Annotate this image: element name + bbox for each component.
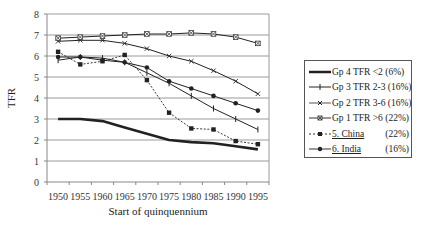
- x-tick-label: 1950: [48, 191, 68, 202]
- circle-marker-swatch-icon: [309, 144, 331, 154]
- series-gp-1-tfr-6: [56, 31, 260, 46]
- thick-line-swatch-icon: [309, 67, 331, 77]
- x-tick-label: 1965: [115, 191, 135, 202]
- legend-label: Gp 2 TFR 3-6 (16%): [332, 98, 412, 108]
- legend-share: (16%): [385, 144, 409, 154]
- boxed-x-marker-swatch-icon: [309, 113, 331, 123]
- x-tick-label: 1960: [93, 191, 113, 202]
- y-tick-label: 7: [34, 30, 39, 41]
- series-gp-2-tfr-3-6: [56, 38, 260, 96]
- legend-label: 5. China: [332, 129, 385, 139]
- legend-label: 6. India: [332, 144, 385, 154]
- x-axis-title: Start of quinquennium: [109, 205, 208, 217]
- legend-item-gp2: Gp 2 TFR 3-6 (16%): [309, 95, 409, 111]
- y-tick-label: 5: [34, 72, 39, 83]
- y-axis-ticks: 012345678: [34, 9, 47, 188]
- legend-item-china: 5. China (22%): [309, 126, 409, 142]
- x-tick-label: 1990: [226, 191, 246, 202]
- series-gp-4-tfr-2: [58, 119, 258, 149]
- legend-item-gp3: Gp 3 TFR 2-3 (16%): [309, 80, 409, 96]
- x-marker-swatch-icon: [309, 98, 331, 108]
- chart-legend: Gp 4 TFR <2 (6%) Gp 3 TFR 2-3 (16%) Gp 2…: [304, 60, 412, 158]
- legend-label: Gp 1 TFR >6 (22%): [332, 113, 409, 123]
- y-tick-label: 6: [34, 51, 39, 62]
- legend-item-gp4: Gp 4 TFR <2 (6%): [309, 64, 409, 80]
- y-axis-title: TFR: [5, 87, 17, 108]
- legend-label: Gp 4 TFR <2 (6%): [332, 67, 409, 77]
- legend-share: (22%): [385, 129, 409, 139]
- legend-item-india: 6. India (16%): [309, 142, 409, 158]
- y-tick-label: 3: [34, 114, 39, 125]
- x-tick-label: 1980: [181, 191, 201, 202]
- plus-marker-swatch-icon: [309, 82, 331, 92]
- y-tick-label: 4: [34, 93, 39, 104]
- y-tick-label: 8: [34, 9, 39, 20]
- legend-label: Gp 3 TFR 2-3 (16%): [332, 82, 412, 92]
- data-series: [56, 31, 260, 150]
- x-tick-label: 1970: [137, 191, 157, 202]
- y-tick-label: 0: [34, 177, 39, 188]
- series-6-india: [56, 55, 260, 113]
- y-tick-label: 1: [34, 156, 39, 167]
- x-axis-ticks: 1950195519601965197019751980198519901995: [47, 182, 269, 202]
- x-tick-label: 1995: [248, 191, 268, 202]
- square-marker-swatch-icon: [309, 129, 331, 139]
- x-tick-label: 1955: [70, 191, 90, 202]
- legend-item-gp1: Gp 1 TFR >6 (22%): [309, 111, 409, 127]
- x-tick-label: 1975: [159, 191, 179, 202]
- x-tick-label: 1985: [204, 191, 224, 202]
- y-tick-label: 2: [34, 135, 39, 146]
